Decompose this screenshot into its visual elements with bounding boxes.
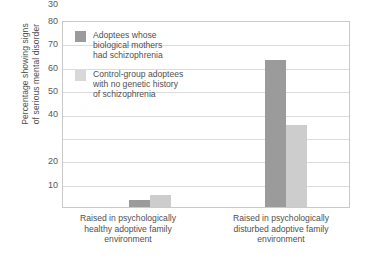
bar-group1-series2 (150, 195, 171, 207)
category-label-1: Raised in psychologically healthy adopti… (58, 213, 198, 245)
legend-label-series2-line3: of schizophrenia (93, 89, 183, 99)
legend-swatch-icon-series2 (75, 70, 86, 81)
bar-group2-series2 (286, 125, 307, 207)
y-tick-20: 20 (36, 157, 58, 166)
y-tick-10: 10 (36, 181, 58, 190)
legend-label-series1: Adoptees whose biological mothers had sc… (93, 30, 163, 61)
y-axis-tick-labels: 80 70 60 50 40 30 20 10 (36, 0, 58, 264)
y-tick-50: 50 (36, 87, 58, 96)
y-tick-60: 60 (36, 64, 58, 73)
legend-item-series2: Control-group adoptees with no genetic h… (75, 69, 255, 100)
legend-label-series1-line3: had schizophrenia (93, 50, 163, 60)
legend-label-series2: Control-group adoptees with no genetic h… (93, 69, 183, 100)
category-label-2-line3: environment (211, 234, 351, 245)
bar-chart: Percentage showing signs of serious ment… (0, 0, 366, 264)
category-label-1-line2: healthy adoptive family (58, 224, 198, 235)
bar-group2-series1 (265, 60, 286, 207)
legend-label-series2-line2: with no genetic history (93, 79, 183, 89)
gridline-40 (63, 116, 349, 117)
category-label-1-line3: environment (58, 234, 198, 245)
category-label-2: Raised in psychologically disturbed adop… (211, 213, 351, 245)
category-label-2-line1: Raised in psychologically (211, 213, 351, 224)
y-tick-80: 80 (36, 17, 58, 26)
legend-label-series1-line1: Adoptees whose (93, 30, 163, 40)
category-label-2-line2: disturbed adoptive family (211, 224, 351, 235)
bar-group1-series1 (129, 200, 150, 207)
y-tick-30: 30 (36, 0, 58, 9)
legend-label-series1-line2: biological mothers (93, 40, 163, 50)
y-tick-40: 40 (36, 110, 58, 119)
legend-label-series2-line1: Control-group adoptees (93, 69, 183, 79)
category-label-1-line1: Raised in psychologically (58, 213, 198, 224)
y-axis-title-line1: Percentage showing signs (20, 0, 31, 154)
y-tick-70: 70 (36, 40, 58, 49)
plot-area: Adoptees whose biological mothers had sc… (62, 21, 350, 208)
legend: Adoptees whose biological mothers had sc… (75, 30, 255, 107)
legend-item-series1: Adoptees whose biological mothers had sc… (75, 30, 255, 61)
legend-swatch-icon-series1 (75, 31, 86, 42)
